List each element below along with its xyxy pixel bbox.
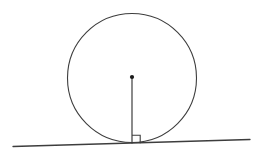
- geometry-figure-canvas: [0, 0, 261, 160]
- figure-background: [0, 0, 261, 160]
- circle-center-dot: [130, 75, 134, 79]
- geometry-diagram-svg: [0, 0, 261, 160]
